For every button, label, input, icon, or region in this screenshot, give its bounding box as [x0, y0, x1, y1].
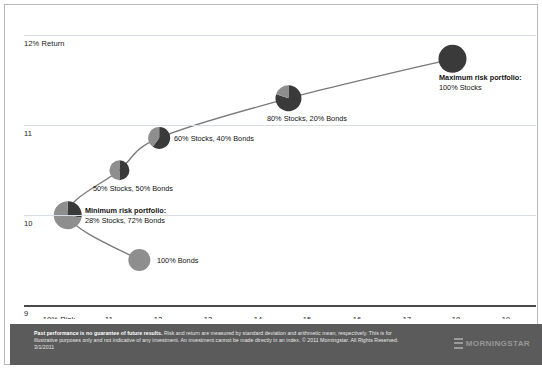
- gridline-11: [24, 125, 536, 126]
- x-tick-label-14: 14: [254, 315, 263, 319]
- label-stocks-80: 80% Stocks, 20% Bonds: [267, 114, 347, 124]
- efficient-frontier-svg: [10, 10, 542, 319]
- marker-stocks-60[interactable]: [148, 127, 170, 149]
- y-tick-label-12: 12% Return: [24, 39, 65, 48]
- label-text-minimum-risk: 28% Stocks, 72% Bonds: [85, 216, 165, 225]
- slice-stocks-maximum-risk: [438, 45, 466, 73]
- label-text-bonds-100: 100% Bonds: [157, 256, 198, 265]
- y-tick-label-9: 9: [24, 309, 28, 318]
- disclaimer-bold: Past performance is no guarantee of futu…: [34, 330, 163, 336]
- gridline-12: [24, 35, 536, 36]
- plot-area: 12% Return11109 10% Risk1112131415161718…: [10, 10, 542, 319]
- disclaimer-text: Past performance is no guarantee of futu…: [34, 330, 406, 352]
- slice-stocks-stocks-50: [119, 160, 129, 180]
- label-stocks-50: 50% Stocks, 50% Bonds: [93, 184, 173, 194]
- x-axis-line: [24, 305, 536, 307]
- x-tick-label-11: 11: [105, 315, 113, 319]
- label-bold-minimum-risk: Minimum risk portfolio:: [85, 206, 166, 215]
- y-tick-label-11: 11: [24, 129, 32, 138]
- marker-maximum-risk[interactable]: [438, 45, 466, 73]
- morningstar-logo: MORNINGSTAR: [454, 338, 530, 349]
- label-text-stocks-50: 50% Stocks, 50% Bonds: [93, 184, 173, 193]
- label-text-maximum-risk: 100% Stocks: [439, 83, 482, 92]
- label-maximum-risk: Maximum risk portfolio:100% Stocks: [439, 73, 522, 92]
- x-tick-label-17: 17: [403, 315, 412, 319]
- slice-bonds-bonds-100: [128, 249, 150, 271]
- y-tick-label-10: 10: [24, 219, 33, 228]
- x-tick-label-15: 15: [303, 315, 312, 319]
- label-text-stocks-80: 80% Stocks, 20% Bonds: [267, 114, 347, 123]
- marker-bonds-100[interactable]: [128, 249, 150, 271]
- chart-frame: 12% Return11109 10% Risk1112131415161718…: [4, 4, 538, 365]
- footer-disclaimer-bar: Past performance is no guarantee of futu…: [10, 324, 542, 365]
- chart-screenshot: 12% Return11109 10% Risk1112131415161718…: [0, 0, 542, 369]
- x-tick-label-19: 19: [502, 315, 511, 319]
- label-text-stocks-60: 60% Stocks, 40% Bonds: [174, 134, 254, 143]
- slice-bonds-stocks-50: [109, 160, 119, 180]
- marker-stocks-50[interactable]: [109, 160, 129, 180]
- label-minimum-risk: Minimum risk portfolio:28% Stocks, 72% B…: [85, 206, 166, 225]
- x-tick-label-10: 10% Risk: [43, 315, 75, 319]
- label-bold-maximum-risk: Maximum risk portfolio:: [439, 73, 522, 82]
- x-tick-label-16: 16: [353, 315, 362, 319]
- label-stocks-60: 60% Stocks, 40% Bonds: [174, 134, 254, 144]
- efficient-frontier-curve: [68, 59, 453, 260]
- x-tick-label-13: 13: [204, 315, 213, 319]
- x-tick-label-12: 12: [154, 315, 163, 319]
- morningstar-mark-icon: [454, 338, 463, 349]
- label-bonds-100: 100% Bonds: [157, 256, 198, 266]
- x-tick-label-18: 18: [452, 315, 461, 319]
- morningstar-wordmark: MORNINGSTAR: [466, 339, 530, 348]
- marker-stocks-80[interactable]: [275, 85, 301, 111]
